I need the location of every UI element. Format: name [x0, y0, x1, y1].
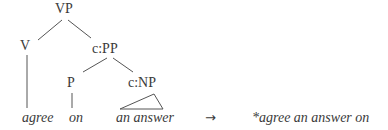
branch-pp-p — [83, 58, 107, 72]
node-p: P — [67, 76, 75, 90]
leaf-on: on — [69, 111, 83, 125]
leaf-agree: agree — [22, 111, 53, 125]
node-v: V — [20, 39, 30, 53]
node-pp: c:PP — [92, 42, 118, 56]
arrow-icon: → — [205, 111, 216, 125]
branch-vp-v — [38, 20, 62, 40]
node-np: c:NP — [128, 76, 156, 90]
branch-pp-np — [113, 58, 133, 72]
ungrammatical-result: *agree an answer on — [252, 111, 369, 125]
node-vp: VP — [55, 2, 73, 16]
leaf-an-answer: an answer — [116, 111, 174, 125]
branch-vp-pp — [68, 20, 91, 38]
np-triangle — [120, 94, 163, 109]
syntax-tree-diagram: VP V c:PP P c:NP agree on an answer → *a… — [0, 0, 388, 130]
